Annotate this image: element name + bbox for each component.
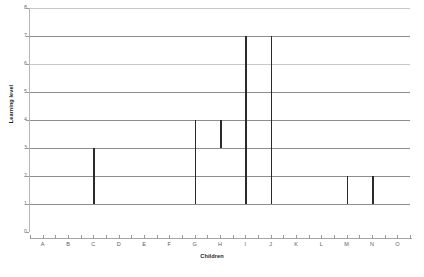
x-tick-mark bbox=[207, 235, 208, 239]
gridline bbox=[30, 204, 410, 205]
chart-container: Learning level 012345678 ABCDEFGHIJKLMNO… bbox=[0, 0, 424, 277]
x-tick-mark bbox=[296, 235, 297, 239]
gridline bbox=[30, 36, 410, 37]
x-tick-mark bbox=[245, 235, 246, 239]
x-tick-label: K bbox=[288, 242, 304, 248]
x-tick-label: J bbox=[263, 242, 279, 248]
y-tick-label: 4 bbox=[13, 117, 27, 122]
x-tick-label: I bbox=[237, 242, 253, 248]
range-bar bbox=[220, 120, 222, 148]
x-tick-mark bbox=[144, 235, 145, 239]
y-axis-tick-labels: 012345678 bbox=[13, 0, 27, 240]
x-tick-mark bbox=[347, 235, 348, 239]
x-tick-label: M bbox=[339, 242, 355, 248]
gridline bbox=[30, 148, 410, 149]
x-tick-mark bbox=[321, 235, 322, 239]
x-tick-mark bbox=[271, 235, 272, 239]
x-tick-mark bbox=[68, 235, 69, 239]
y-tick-mark bbox=[26, 176, 29, 177]
x-tick-mark bbox=[55, 235, 56, 239]
y-tick-mark bbox=[26, 148, 29, 149]
x-tick-mark bbox=[106, 235, 107, 239]
y-tick-label: 0 bbox=[13, 229, 27, 234]
x-tick-mark bbox=[220, 235, 221, 239]
x-tick-mark bbox=[397, 235, 398, 239]
y-tick-label: 2 bbox=[13, 173, 27, 178]
x-tick-label: E bbox=[136, 242, 152, 248]
y-tick-mark bbox=[26, 204, 29, 205]
x-tick-mark bbox=[385, 235, 386, 239]
x-tick-mark bbox=[309, 235, 310, 239]
range-bar bbox=[372, 176, 374, 204]
x-tick-mark bbox=[169, 235, 170, 239]
range-bar bbox=[347, 176, 349, 204]
x-tick-mark bbox=[182, 235, 183, 239]
x-tick-mark bbox=[131, 235, 132, 239]
x-tick-mark bbox=[30, 235, 31, 239]
range-bar bbox=[271, 36, 273, 204]
y-tick-label: 7 bbox=[13, 33, 27, 38]
y-tick-label: 8 bbox=[13, 5, 27, 10]
y-tick-label: 5 bbox=[13, 89, 27, 94]
x-tick-mark bbox=[93, 235, 94, 239]
x-tick-label: F bbox=[161, 242, 177, 248]
x-tick-label: N bbox=[364, 242, 380, 248]
y-tick-mark bbox=[26, 232, 29, 233]
x-tick-label: O bbox=[389, 242, 405, 248]
x-tick-label: L bbox=[313, 242, 329, 248]
x-tick-mark bbox=[119, 235, 120, 239]
y-tick-mark bbox=[26, 8, 29, 9]
x-tick-mark bbox=[233, 235, 234, 239]
x-tick-label: H bbox=[212, 242, 228, 248]
gridline bbox=[30, 64, 410, 65]
y-tick-label: 1 bbox=[13, 201, 27, 206]
y-tick-mark bbox=[26, 64, 29, 65]
x-axis-line bbox=[30, 238, 412, 239]
x-tick-mark bbox=[195, 235, 196, 239]
plot-area bbox=[30, 8, 410, 232]
x-axis-title: Children bbox=[0, 253, 424, 259]
y-tick-mark bbox=[26, 120, 29, 121]
gridline bbox=[30, 8, 410, 9]
x-tick-mark bbox=[283, 235, 284, 239]
x-tick-label: G bbox=[187, 242, 203, 248]
x-tick-mark bbox=[81, 235, 82, 239]
range-bar bbox=[93, 148, 95, 204]
x-tick-label: A bbox=[35, 242, 51, 248]
x-tick-mark bbox=[258, 235, 259, 239]
y-tick-label: 3 bbox=[13, 145, 27, 150]
range-bar bbox=[245, 36, 247, 204]
x-tick-mark bbox=[410, 235, 411, 239]
y-tick-mark bbox=[26, 36, 29, 37]
x-tick-mark bbox=[359, 235, 360, 239]
y-tick-label: 6 bbox=[13, 61, 27, 66]
x-tick-label: B bbox=[60, 242, 76, 248]
x-tick-label: C bbox=[85, 242, 101, 248]
x-tick-mark bbox=[334, 235, 335, 239]
x-tick-label: D bbox=[111, 242, 127, 248]
gridline bbox=[30, 92, 410, 93]
y-tick-mark bbox=[26, 92, 29, 93]
x-tick-mark bbox=[372, 235, 373, 239]
gridline bbox=[30, 176, 410, 177]
x-tick-mark bbox=[43, 235, 44, 239]
x-tick-mark bbox=[157, 235, 158, 239]
range-bar bbox=[195, 120, 197, 204]
